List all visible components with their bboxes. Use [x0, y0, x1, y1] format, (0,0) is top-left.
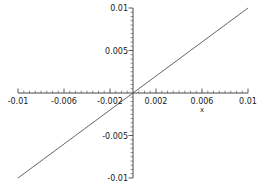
x-tick-label: 0.002: [145, 97, 168, 106]
x-tick-label: 0.006: [191, 97, 214, 106]
x-tick-label: -0.002: [97, 97, 123, 106]
x-tick-label: -0.01: [8, 97, 29, 106]
y-tick-label: 0.01: [110, 4, 128, 13]
plot-figure: -0.01 -0.006 -0.002 0.002 0.006 0.01 x 0…: [0, 0, 261, 191]
x-axis-label: x: [200, 106, 204, 114]
x-tick-label: -0.006: [51, 97, 77, 106]
y-tick-label: -0.005: [102, 132, 128, 141]
y-tick-label: -0.01: [107, 174, 128, 183]
y-tick-label: 0.005: [105, 47, 128, 56]
x-tick-label: 0.01: [239, 97, 257, 106]
plot-canvas: -0.01 -0.006 -0.002 0.002 0.006 0.01 x 0…: [0, 0, 261, 191]
